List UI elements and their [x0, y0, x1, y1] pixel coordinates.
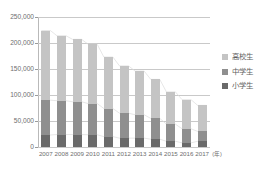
bar-segment	[198, 131, 207, 141]
legend-item[interactable]: 高校生	[222, 53, 253, 61]
y-tick-label: 150,000	[0, 66, 34, 73]
bar-segment	[73, 102, 82, 135]
stacked-bar-chart: 250,000200,000150,000100,00050,0000 2007…	[0, 0, 274, 174]
gridline	[38, 147, 210, 148]
bar-stack	[57, 36, 66, 147]
bar-stack	[166, 92, 175, 147]
bar-segment	[41, 31, 50, 101]
legend-label: 中学生	[232, 68, 253, 76]
chart-legend: 高校生中学生小学生	[222, 53, 253, 97]
legend-item[interactable]: 小学生	[222, 82, 253, 90]
bar-segment	[57, 101, 66, 135]
bar-segment	[104, 109, 113, 137]
bar-stack	[135, 71, 144, 147]
bar-segment	[198, 105, 207, 131]
legend-swatch-icon	[222, 69, 228, 75]
y-tick-label: 200,000	[0, 40, 34, 47]
bar-segment	[88, 104, 97, 135]
bar-segment	[166, 124, 175, 141]
y-tick-label: 50,000	[0, 118, 34, 125]
bar-segment	[41, 100, 50, 135]
bar-segment	[57, 135, 66, 147]
y-tick-label: 100,000	[0, 92, 34, 99]
bar-stack	[88, 44, 97, 147]
bar-segment	[57, 36, 66, 101]
legend-item[interactable]: 中学生	[222, 68, 253, 76]
bar-segment	[182, 100, 191, 129]
x-tick-label: 2017	[191, 151, 213, 157]
bar-stack	[182, 100, 191, 147]
bar-segment	[151, 139, 160, 147]
y-tick-label: 0	[0, 144, 34, 151]
bar-stack	[151, 79, 160, 147]
bar-segment	[166, 141, 175, 147]
bar-segment	[73, 135, 82, 147]
bar-segment	[151, 118, 160, 139]
bar-stack	[104, 57, 113, 147]
bar-segment	[135, 138, 144, 147]
bar-segment	[88, 44, 97, 103]
bar-segment	[182, 129, 191, 143]
y-tick-mark	[35, 147, 38, 148]
bar-segment	[166, 92, 175, 124]
bar-segment	[41, 135, 50, 147]
y-tick-label: 250,000	[0, 14, 34, 21]
bar-segment	[120, 66, 129, 113]
legend-swatch-icon	[222, 54, 228, 60]
bar-stack	[41, 31, 50, 147]
bar-series	[38, 17, 210, 147]
bar-stack	[73, 39, 82, 147]
bar-segment	[135, 115, 144, 138]
bar-segment	[198, 141, 207, 147]
bar-stack	[120, 66, 129, 147]
bar-segment	[104, 137, 113, 147]
bar-segment	[88, 135, 97, 147]
legend-label: 高校生	[232, 53, 253, 61]
legend-swatch-icon	[222, 83, 228, 89]
bar-segment	[120, 138, 129, 147]
bar-segment	[120, 113, 129, 138]
x-axis-unit-label: (年)	[212, 152, 222, 158]
plot-area	[38, 17, 210, 147]
bar-stack	[198, 105, 207, 147]
bar-segment	[151, 79, 160, 118]
legend-label: 小学生	[232, 82, 253, 90]
bar-segment	[73, 39, 82, 101]
bar-segment	[104, 57, 113, 108]
bar-segment	[182, 143, 191, 147]
bar-segment	[135, 71, 144, 115]
